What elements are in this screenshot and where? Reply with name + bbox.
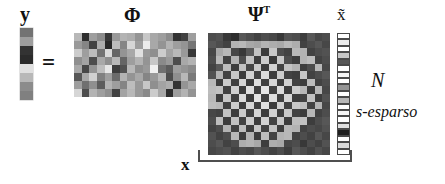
matrix-psi-cell: [239, 132, 247, 140]
matrix-psi-cell: [246, 132, 254, 140]
matrix-phi-cell: [181, 41, 189, 49]
matrix-psi-cell: [300, 102, 308, 110]
matrix-phi-cell: [181, 49, 189, 57]
matrix-psi-cell: [223, 94, 231, 102]
matrix-psi-cell: [300, 147, 308, 155]
matrix-phi-cell: [150, 57, 158, 65]
matrix-psi-cell: [254, 79, 262, 87]
matrix-psi-cell: [307, 41, 315, 49]
matrix-psi-cell: [254, 48, 262, 56]
matrix-phi-cell: [158, 81, 166, 89]
matrix-psi-cell: [292, 71, 300, 79]
matrix-phi-cell: [82, 41, 90, 49]
matrix-phi-cell: [127, 41, 135, 49]
matrix-psi-cell: [231, 33, 239, 41]
matrix-psi-cell: [216, 109, 224, 117]
matrix-phi-cell: [82, 33, 90, 41]
matrix-phi-cell: [127, 89, 135, 97]
matrix-psi-cell: [246, 56, 254, 64]
matrix-phi-cell: [120, 33, 128, 41]
matrix-psi-cell: [261, 48, 269, 56]
matrix-phi-cell: [181, 33, 189, 41]
matrix-psi-cell: [277, 125, 285, 133]
matrix-psi-cell: [216, 71, 224, 79]
matrix-phi-cell: [158, 49, 166, 57]
matrix-psi-cell: [254, 140, 262, 148]
matrix-psi-cell: [261, 94, 269, 102]
x-bracket-right-tick: [350, 150, 352, 161]
matrix-psi-cell: [254, 125, 262, 133]
matrix-phi-cell: [143, 73, 151, 81]
matrix-psi-cell: [208, 132, 216, 140]
matrix-phi-cell: [89, 81, 97, 89]
matrix-phi-cell: [181, 73, 189, 81]
matrix-phi-cell: [135, 49, 143, 57]
matrix-psi-cell: [254, 94, 262, 102]
matrix-psi-cell: [315, 109, 323, 117]
x-bracket-line: [198, 160, 352, 162]
matrix-psi-cell: [292, 56, 300, 64]
matrix-phi-cell: [135, 81, 143, 89]
matrix-psi-cell: [307, 71, 315, 79]
matrix-psi-cell: [246, 94, 254, 102]
matrix-psi-cell: [284, 48, 292, 56]
matrix-psi-cell: [269, 33, 277, 41]
matrix-phi-cell: [181, 65, 189, 73]
matrix-psi-cell: [322, 79, 330, 87]
matrix-psi-cell: [246, 109, 254, 117]
matrix-phi-cell: [105, 73, 113, 81]
matrix-psi-cell: [246, 140, 254, 148]
matrix-psi-cell: [269, 102, 277, 110]
matrix-phi-cell: [97, 89, 105, 97]
matrix-y-cell: [20, 64, 33, 73]
matrix-psi-cell: [246, 125, 254, 133]
matrix-phi-cell: [188, 89, 196, 97]
matrix-psi-cell: [307, 86, 315, 94]
matrix-psi-cell: [292, 109, 300, 117]
matrix-psi-cell: [322, 147, 330, 155]
matrix-psi-cell: [307, 102, 315, 110]
matrix-phi-cell: [135, 89, 143, 97]
matrix-psi-cell: [322, 132, 330, 140]
matrix-x-tilde-cell: [337, 149, 350, 155]
matrix-phi-cell: [166, 65, 174, 73]
matrix-phi-cell: [150, 33, 158, 41]
label-psi-glyph: Ψ: [248, 3, 264, 25]
matrix-psi-cell: [277, 79, 285, 87]
matrix-phi-cell: [112, 65, 120, 73]
matrix-psi-cell: [231, 79, 239, 87]
matrix-psi-cell: [231, 109, 239, 117]
matrix-phi-cell: [105, 33, 113, 41]
matrix-psi-cell: [307, 109, 315, 117]
matrix-psi-cell: [284, 140, 292, 148]
matrix-psi-cell: [269, 41, 277, 49]
matrix-psi-cell: [231, 140, 239, 148]
matrix-psi-cell: [231, 117, 239, 125]
matrix-psi-cell: [254, 132, 262, 140]
matrix-psi-cell: [254, 64, 262, 72]
matrix-psi-cell: [223, 132, 231, 140]
matrix-psi-cell: [300, 125, 308, 133]
matrix-psi-cell: [307, 125, 315, 133]
matrix-psi-cell: [216, 79, 224, 87]
matrix-phi-cell: [127, 33, 135, 41]
matrix-psi-cell: [307, 140, 315, 148]
matrix-psi-cell: [223, 86, 231, 94]
matrix-phi-cell: [89, 41, 97, 49]
matrix-psi-cell: [246, 102, 254, 110]
matrix-phi-cell: [97, 81, 105, 89]
matrix-phi-cell: [112, 41, 120, 49]
matrix-phi-cell: [135, 41, 143, 49]
matrix-phi-cell: [120, 57, 128, 65]
matrix-phi-cell: [97, 65, 105, 73]
matrix-psi-cell: [277, 86, 285, 94]
matrix-phi-cell: [173, 89, 181, 97]
matrix-phi-cell: [150, 81, 158, 89]
matrix-psi-cell: [216, 48, 224, 56]
matrix-psi-cell: [223, 109, 231, 117]
matrix-phi-cell: [173, 73, 181, 81]
matrix-psi-cell: [254, 71, 262, 79]
matrix-psi-cell: [277, 117, 285, 125]
matrix-phi-cell: [150, 73, 158, 81]
matrix-psi-cell: [239, 147, 247, 155]
